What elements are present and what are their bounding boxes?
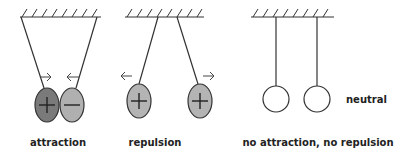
label-repulsion: repulsion <box>129 137 182 148</box>
ceiling-support <box>251 9 334 17</box>
panel-neutral: neutral no attraction, no repulsion <box>242 9 393 148</box>
ball-positive <box>35 88 59 122</box>
ceiling-support <box>125 9 204 17</box>
ball-neutral-left <box>263 86 289 112</box>
ceiling-support <box>20 9 101 17</box>
electrostatics-diagram: attraction <box>0 0 404 154</box>
arrow-left-icon <box>67 73 79 81</box>
label-attraction: attraction <box>30 137 86 148</box>
string-left <box>139 17 158 84</box>
ball-positive-left <box>127 84 151 118</box>
arrow-right-icon <box>203 72 214 80</box>
label-no-attraction-no-repulsion: no attraction, no repulsion <box>242 137 393 148</box>
panel-attraction: attraction <box>20 9 101 148</box>
ball-negative <box>60 88 84 122</box>
string-right <box>177 17 198 84</box>
ball-neutral-right <box>304 86 330 112</box>
string-right <box>76 17 97 88</box>
ball-positive-right <box>188 84 212 118</box>
panel-repulsion: repulsion <box>121 9 214 148</box>
label-neutral: neutral <box>346 94 387 105</box>
arrow-left-icon <box>121 72 132 80</box>
